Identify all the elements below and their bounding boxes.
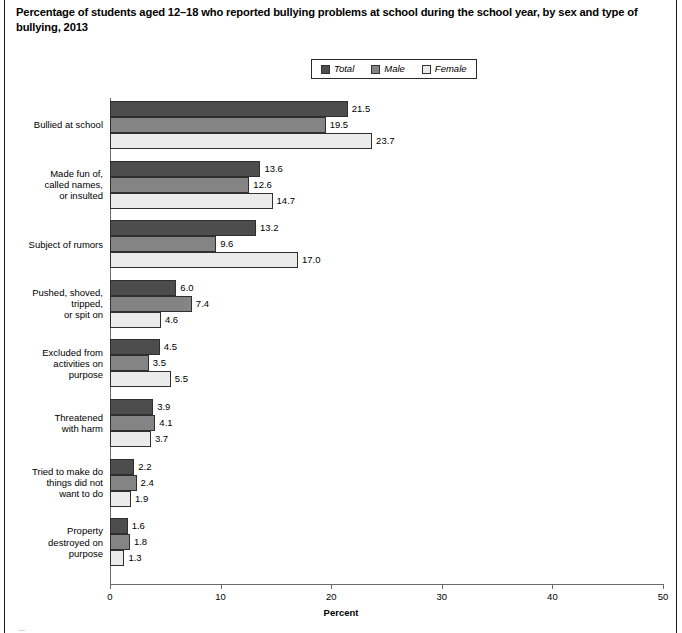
bar-total[interactable] [110,399,153,415]
figure-frame: Percentage of students aged 12–18 who re… [0,0,682,633]
bar-row: 17.0 [110,252,680,268]
legend-label: Male [384,64,405,74]
chart-legend: TotalMaleFemale [311,59,477,79]
bar-female[interactable] [110,133,372,149]
bar-row: 19.5 [110,117,680,133]
bar-value-label: 4.1 [159,417,172,429]
bar-row: 13.6 [110,161,680,177]
x-axis-tick [110,584,111,589]
x-axis-tick-label: 40 [547,591,558,602]
bar-male[interactable] [110,415,155,431]
bar-row: 3.7 [110,431,680,447]
bar-value-label: 7.4 [196,298,209,310]
bar-value-label: 4.5 [164,341,177,353]
bar-total[interactable] [110,220,256,236]
bar-total[interactable] [110,280,176,296]
legend-item-total[interactable]: Total [321,64,354,74]
bar-row: 1.6 [110,518,680,534]
bar-row: 1.3 [110,550,680,566]
category-label: Bullied at school [0,119,103,130]
legend-swatch-icon [371,65,380,74]
bar-total[interactable] [110,459,134,475]
bar-value-label: 13.6 [264,163,283,175]
bar-total[interactable] [110,161,260,177]
bar-group: Made fun of, called names, or insulted13… [110,161,680,209]
bar-value-label: 1.3 [128,552,141,564]
x-axis-tick [442,584,443,589]
bar-male[interactable] [110,475,137,491]
bar-female[interactable] [110,193,273,209]
category-label: Made fun of, called names, or insulted [0,168,103,202]
bar-value-label: 3.5 [153,357,166,369]
bar-row: 7.4 [110,296,680,312]
bar-row: 4.5 [110,339,680,355]
bar-male[interactable] [110,296,192,312]
bar-value-label: 1.6 [132,520,145,532]
legend-item-female[interactable]: Female [422,64,467,74]
bar-female[interactable] [110,252,298,268]
bar-row: 1.8 [110,534,680,550]
bar-row: 9.6 [110,236,680,252]
category-label: Property destroyed on purpose [0,525,103,559]
legend-label: Female [435,64,467,74]
bar-row: 23.7 [110,133,680,149]
bar-row: 14.7 [110,193,680,209]
bar-value-label: 2.4 [141,477,154,489]
category-label: Pushed, shoved, tripped, or spit on [0,287,103,321]
bar-row: 4.1 [110,415,680,431]
x-axis-tick-label: 10 [215,591,226,602]
x-axis-tick-label: 30 [437,591,448,602]
bar-value-label: 1.8 [134,536,147,548]
bar-row: 2.2 [110,459,680,475]
legend-swatch-icon [422,65,431,74]
legend-label: Total [334,64,354,74]
bar-female[interactable] [110,371,171,387]
bar-female[interactable] [110,491,131,507]
clipped-footnote: — [18,626,668,633]
bar-value-label: 4.6 [165,314,178,326]
bar-value-label: 5.5 [175,373,188,385]
bar-group: Excluded from activities on purpose4.53.… [110,339,680,387]
bar-group: Bullied at school21.519.523.7 [110,101,680,149]
bar-male[interactable] [110,534,130,550]
bar-male[interactable] [110,355,149,371]
bar-total[interactable] [110,518,128,534]
bar-male[interactable] [110,117,326,133]
bar-value-label: 21.5 [352,103,371,115]
bar-value-label: 23.7 [376,135,395,147]
x-axis-tick-label: 20 [326,591,337,602]
legend-swatch-icon [321,65,330,74]
category-label: Excluded from activities on purpose [0,347,103,381]
bar-male[interactable] [110,236,216,252]
bar-row: 12.6 [110,177,680,193]
bar-female[interactable] [110,431,151,447]
bar-row: 3.5 [110,355,680,371]
bar-row: 13.2 [110,220,680,236]
category-label: Tried to make do things did not want to … [0,466,103,500]
x-axis-tick [331,584,332,589]
bar-total[interactable] [110,339,160,355]
bar-row: 5.5 [110,371,680,387]
category-label: Subject of rumors [0,239,103,250]
bar-row: 21.5 [110,101,680,117]
bar-male[interactable] [110,177,249,193]
legend-item-male[interactable]: Male [371,64,405,74]
x-axis-tick-label: 0 [107,591,112,602]
bar-group: Subject of rumors13.29.617.0 [110,220,680,268]
category-label: Threatened with harm [0,412,103,434]
bar-total[interactable] [110,101,348,117]
bar-female[interactable] [110,312,161,328]
bar-value-label: 19.5 [330,119,349,131]
page-title: Percentage of students aged 12–18 who re… [16,5,656,35]
x-axis-tick [663,584,664,589]
bar-value-label: 12.6 [253,179,272,191]
x-axis-line [110,584,664,585]
bar-value-label: 3.7 [155,433,168,445]
bar-female[interactable] [110,550,124,566]
bar-value-label: 3.9 [157,401,170,413]
bar-group: Property destroyed on purpose1.61.81.3 [110,518,680,566]
x-axis-tick-label: 50 [658,591,669,602]
bar-row: 1.9 [110,491,680,507]
x-axis-title: Percent [0,607,682,618]
bar-value-label: 9.6 [220,238,233,250]
